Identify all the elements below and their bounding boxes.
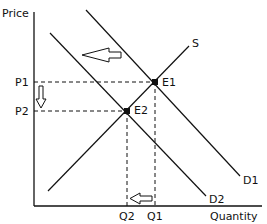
e1-point xyxy=(152,79,158,85)
supply-curve xyxy=(48,46,189,191)
p2-label: P2 xyxy=(15,105,29,118)
quantity-left-arrow-icon xyxy=(130,193,152,204)
q2-label: Q2 xyxy=(119,210,135,223)
e1-label: E1 xyxy=(162,76,176,89)
demand-shift-arrow-icon xyxy=(82,48,121,62)
x-axis-label: Quantity xyxy=(210,210,258,223)
price-down-arrow-icon xyxy=(36,86,46,108)
y-axis-label: Price xyxy=(2,7,29,20)
q1-label: Q1 xyxy=(147,210,163,223)
supply-label: S xyxy=(192,37,199,50)
d2-label: D2 xyxy=(209,193,224,206)
p1-label: P1 xyxy=(15,76,29,89)
d1-label: D1 xyxy=(243,174,258,187)
e2-label: E2 xyxy=(134,104,148,117)
e2-point xyxy=(124,108,130,114)
supply-demand-diagram: Price Quantity D1 D2 S E1 E2 P1 P2 Q2 Q1 xyxy=(0,0,267,224)
axes xyxy=(34,12,262,206)
